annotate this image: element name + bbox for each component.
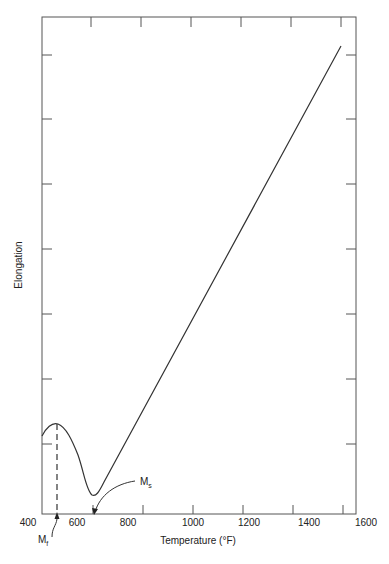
x-axis-label: Temperature (°F) xyxy=(160,535,236,546)
svg-text:1200: 1200 xyxy=(238,517,261,528)
mf-leader xyxy=(52,519,57,537)
svg-text:1400: 1400 xyxy=(298,517,321,528)
svg-text:800: 800 xyxy=(120,517,137,528)
svg-text:600: 600 xyxy=(69,517,86,528)
mf-label: Mf xyxy=(38,534,48,547)
svg-text:1000: 1000 xyxy=(182,517,205,528)
y-axis-ticks xyxy=(42,55,356,444)
y-axis-label: Elongation xyxy=(13,241,24,288)
elongation-chart: Ms Mf 400 600 800 1000 1200 1400 1600 Te… xyxy=(0,0,389,564)
svg-text:1600: 1600 xyxy=(355,517,378,528)
plot-frame xyxy=(42,17,356,514)
mf-arrow-icon xyxy=(55,512,60,519)
x-tick-labels: 400 600 800 1000 1200 1400 1600 xyxy=(20,517,378,528)
ms-leader xyxy=(95,481,135,512)
ms-label: Ms xyxy=(140,476,152,489)
svg-text:400: 400 xyxy=(20,517,37,528)
elongation-curve xyxy=(42,46,341,495)
x-axis-ticks xyxy=(91,17,343,514)
